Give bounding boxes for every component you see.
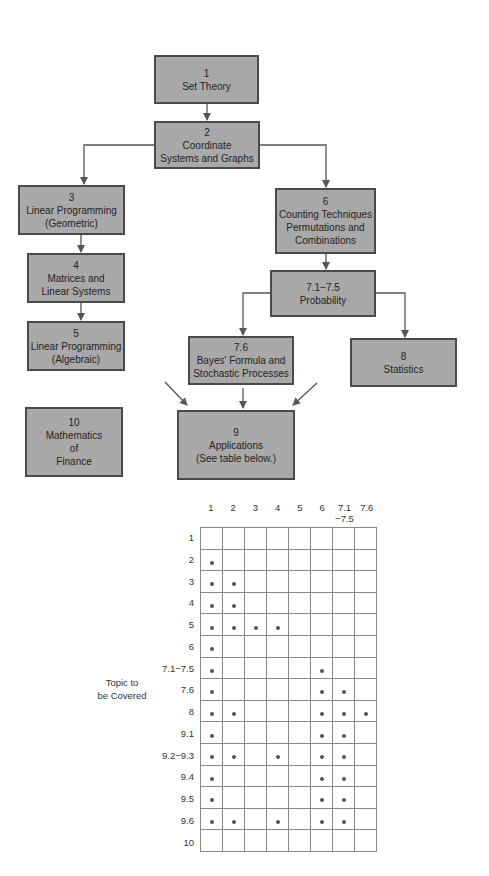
table-cell — [355, 549, 377, 571]
prerequisite-dot — [320, 669, 324, 673]
table-cell — [267, 787, 289, 809]
box-label: (See table below.) — [196, 452, 276, 465]
table-row — [201, 722, 377, 744]
table-row — [201, 765, 377, 787]
box-applications: 9 Applications (See table below.) — [177, 410, 295, 480]
row-axis-label: Topic to be Covered — [82, 676, 162, 702]
prerequisite-dot — [232, 626, 236, 630]
table-cell — [289, 700, 311, 722]
prerequisite-dot — [364, 712, 368, 716]
table-cell — [289, 592, 311, 614]
table-cell — [201, 592, 223, 614]
row-label: 6 — [134, 636, 194, 657]
box-label: Probability — [300, 294, 347, 307]
table-cell — [355, 722, 377, 744]
row-label: 9.4 — [134, 766, 194, 787]
table-row — [201, 679, 377, 701]
table-cell — [267, 743, 289, 765]
prerequisite-dot — [210, 582, 214, 586]
table-cell — [201, 657, 223, 679]
table-cell — [311, 549, 333, 571]
table-cell — [267, 592, 289, 614]
box-counting-techniques: 6 Counting Techniques Permutations and C… — [275, 188, 376, 254]
table-cell — [311, 743, 333, 765]
row-axis-label-line: be Covered — [82, 689, 162, 702]
prerequisite-dot — [320, 734, 324, 738]
prerequisite-dot — [210, 777, 214, 781]
prerequisite-dot — [276, 626, 280, 630]
box-label: Bayes' Formula and — [197, 354, 286, 367]
table-cell — [311, 722, 333, 744]
table-row — [201, 657, 377, 679]
box-label: Statistics — [383, 363, 423, 376]
table-cell — [245, 592, 267, 614]
row-label: 10 — [134, 832, 194, 853]
box-label: Applications — [209, 439, 263, 452]
table-cell — [201, 635, 223, 657]
box-coordinate-systems: 2 Coordinate Systems and Graphs — [154, 121, 260, 169]
prerequisite-dot — [320, 777, 324, 781]
table-cell — [289, 614, 311, 636]
prerequisite-dot — [276, 755, 280, 759]
box-linear-programming-geometric: 3 Linear Programming (Geometric) — [18, 185, 125, 235]
prerequisite-dot — [342, 820, 346, 824]
table-cell — [201, 808, 223, 830]
box-label: 8 — [401, 350, 407, 363]
table-cell — [333, 614, 355, 636]
box-label: Permutations and — [286, 221, 364, 234]
table-cell — [333, 657, 355, 679]
table-cell — [355, 614, 377, 636]
table-cell — [355, 592, 377, 614]
table-cell — [245, 743, 267, 765]
table-cell — [355, 528, 377, 550]
table-cell — [201, 614, 223, 636]
column-header: 5 — [289, 502, 311, 513]
row-label: 1 — [134, 527, 194, 548]
table-cell — [223, 722, 245, 744]
prerequisite-dot — [320, 755, 324, 759]
column-header-label: 7.1 — [334, 502, 356, 513]
prerequisite-dot — [276, 820, 280, 824]
column-header-label: 6 — [311, 502, 333, 513]
row-label: 4 — [134, 592, 194, 613]
prerequisite-dot — [232, 712, 236, 716]
table-cell — [289, 635, 311, 657]
column-header: 7.6 — [356, 502, 378, 513]
table-cell — [333, 592, 355, 614]
table-cell — [289, 787, 311, 809]
box-probability: 7.1−7.5 Probability — [270, 270, 376, 317]
table-cell — [311, 592, 333, 614]
row-label: 9.2−9.3 — [134, 745, 194, 766]
box-label: Coordinate — [183, 139, 232, 152]
column-header: 4 — [267, 502, 289, 513]
table-cell — [223, 787, 245, 809]
table-cell — [289, 679, 311, 701]
table-cell — [333, 722, 355, 744]
row-label: 9.6 — [134, 810, 194, 831]
box-label: of — [70, 442, 78, 455]
table-cell — [333, 700, 355, 722]
table-row — [201, 635, 377, 657]
edge-2-3 — [84, 145, 154, 184]
prerequisite-dot — [342, 755, 346, 759]
table-row — [201, 830, 377, 852]
table-cell — [355, 743, 377, 765]
table-cell — [245, 571, 267, 593]
table-cell — [311, 830, 333, 852]
table-cell — [355, 635, 377, 657]
table-cell — [355, 700, 377, 722]
table-cell — [223, 743, 245, 765]
table-cell — [223, 679, 245, 701]
table-cell — [201, 571, 223, 593]
table-cell — [355, 787, 377, 809]
table-cell — [267, 528, 289, 550]
prerequisite-dot — [210, 561, 214, 565]
column-header-label: 1 — [200, 502, 222, 513]
table-cell — [333, 830, 355, 852]
row-label: 9.1 — [134, 723, 194, 744]
table-cell — [267, 549, 289, 571]
table-cell — [355, 765, 377, 787]
prerequisite-dot — [232, 820, 236, 824]
prerequisite-dot — [342, 712, 346, 716]
box-statistics: 8 Statistics — [350, 338, 457, 387]
